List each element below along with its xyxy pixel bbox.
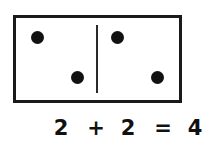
domino-pip	[71, 71, 84, 84]
domino-tile	[13, 15, 182, 103]
domino-pip	[111, 31, 124, 44]
addition-equation: 2 + 2 = 4	[0, 114, 213, 142]
operand-a: 2	[52, 114, 70, 142]
domino-pip	[31, 31, 44, 44]
plus-sign: +	[87, 114, 105, 142]
domino-divider	[96, 25, 98, 93]
operand-b: 2	[119, 114, 137, 142]
equals-sign: =	[154, 114, 172, 142]
result: 4	[186, 114, 204, 142]
domino-pip	[151, 71, 164, 84]
